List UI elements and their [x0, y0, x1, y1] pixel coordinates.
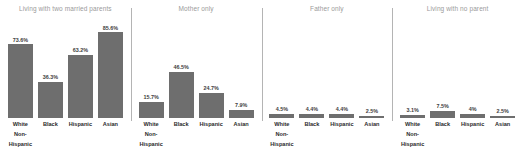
bar-slot: 15.7% — [139, 18, 164, 118]
bar[interactable] — [299, 114, 324, 118]
bar-value-label: 4.4% — [306, 107, 318, 112]
bar-value-label: 24.7% — [203, 86, 218, 91]
category-axis: White Non-Hispanic Black Hispanic Asian — [131, 120, 262, 149]
bar[interactable] — [68, 55, 93, 118]
panel-title: Living with no parent — [392, 5, 523, 12]
chart-panel: Mother only 15.7% 46.5% 24.7% 7.9% — [131, 0, 262, 152]
bar-slot: 46.5% — [169, 18, 194, 118]
bar-slot: 24.7% — [199, 18, 224, 118]
panel-title: Living with two married parents — [0, 5, 131, 12]
chart-panel: Living with two married parents 73.6% 36… — [0, 0, 131, 152]
category-label: Asian — [359, 120, 384, 149]
category-label: White Non-Hispanic — [269, 120, 294, 149]
chart-panel: Father only 4.5% 4.4% 4.4% 2.5% — [262, 0, 393, 152]
plot-area: 73.6% 36.3% 63.2% 85.6% — [0, 18, 131, 118]
bar[interactable] — [359, 116, 384, 119]
bar[interactable] — [430, 111, 455, 119]
bar[interactable] — [98, 32, 123, 118]
bar[interactable] — [139, 102, 164, 118]
panel-container: Living with two married parents 73.6% 36… — [0, 0, 523, 152]
category-label: Black — [430, 120, 455, 149]
bar-value-label: 15.7% — [143, 95, 158, 100]
bar-slot: 4.4% — [299, 18, 324, 118]
bar-slot: 2.5% — [490, 18, 515, 118]
category-label: Asian — [229, 120, 254, 149]
panel-title: Father only — [262, 5, 393, 12]
chart-panel: Living with no parent 3.1% 7.5% 4% 2.5% — [392, 0, 523, 152]
bar-value-label: 46.5% — [173, 65, 188, 70]
bar-value-label: 7.5% — [436, 104, 448, 109]
bar-slot: 3.1% — [400, 18, 425, 118]
bar-slot: 4% — [460, 18, 485, 118]
category-label: Asian — [490, 120, 515, 149]
category-axis: White Non-Hispanic Black Hispanic Asian — [392, 120, 523, 149]
bar-slot: 2.5% — [359, 18, 384, 118]
bar[interactable] — [169, 72, 194, 119]
bar-slot: 85.6% — [98, 18, 123, 118]
bar[interactable] — [8, 44, 33, 118]
category-label: Black — [169, 120, 194, 149]
bar[interactable] — [490, 116, 515, 119]
category-label: White Non-Hispanic — [400, 120, 425, 149]
panel-title: Mother only — [131, 5, 262, 12]
plot-area: 15.7% 46.5% 24.7% 7.9% — [131, 18, 262, 118]
bar[interactable] — [38, 82, 63, 118]
bar[interactable] — [460, 114, 485, 118]
bar-value-label: 3.1% — [406, 108, 418, 113]
category-label: Hispanic — [199, 120, 224, 149]
bar-value-label: 2.5% — [366, 109, 378, 114]
bar-slot: 7.9% — [229, 18, 254, 118]
bar[interactable] — [199, 93, 224, 118]
bar-value-label: 73.6% — [13, 38, 28, 43]
category-label: Hispanic — [329, 120, 354, 149]
category-label: Black — [299, 120, 324, 149]
bar-slot: 36.3% — [38, 18, 63, 118]
bar-value-label: 4.4% — [336, 107, 348, 112]
bar-slot: 73.6% — [8, 18, 33, 118]
category-label: Asian — [98, 120, 123, 149]
plot-area: 3.1% 7.5% 4% 2.5% — [392, 18, 523, 118]
category-label: Hispanic — [68, 120, 93, 149]
bar-value-label: 2.5% — [496, 109, 508, 114]
bar-value-label: 7.9% — [235, 103, 247, 108]
bar[interactable] — [269, 114, 294, 119]
bar[interactable] — [400, 115, 425, 118]
bar-slot: 7.5% — [430, 18, 455, 118]
bar-slot: 4.5% — [269, 18, 294, 118]
category-axis: White Non-Hispanic Black Hispanic Asian — [262, 120, 393, 149]
bar-slot: 4.4% — [329, 18, 354, 118]
small-multiples-bar-chart: Living with two married parents 73.6% 36… — [0, 0, 523, 152]
bar-value-label: 85.6% — [103, 26, 118, 31]
bar[interactable] — [329, 114, 354, 118]
plot-area: 4.5% 4.4% 4.4% 2.5% — [262, 18, 393, 118]
category-axis: White Non-Hispanic Black Hispanic Asian — [0, 120, 131, 149]
bar-value-label: 36.3% — [43, 75, 58, 80]
category-label: Black — [38, 120, 63, 149]
bar-value-label: 4.5% — [276, 107, 288, 112]
bar-slot: 63.2% — [68, 18, 93, 118]
bar-value-label: 63.2% — [73, 48, 88, 53]
bar-value-label: 4% — [469, 107, 477, 112]
bar[interactable] — [229, 110, 254, 118]
category-label: White Non-Hispanic — [139, 120, 164, 149]
category-label: White Non-Hispanic — [8, 120, 33, 149]
category-label: Hispanic — [460, 120, 485, 149]
